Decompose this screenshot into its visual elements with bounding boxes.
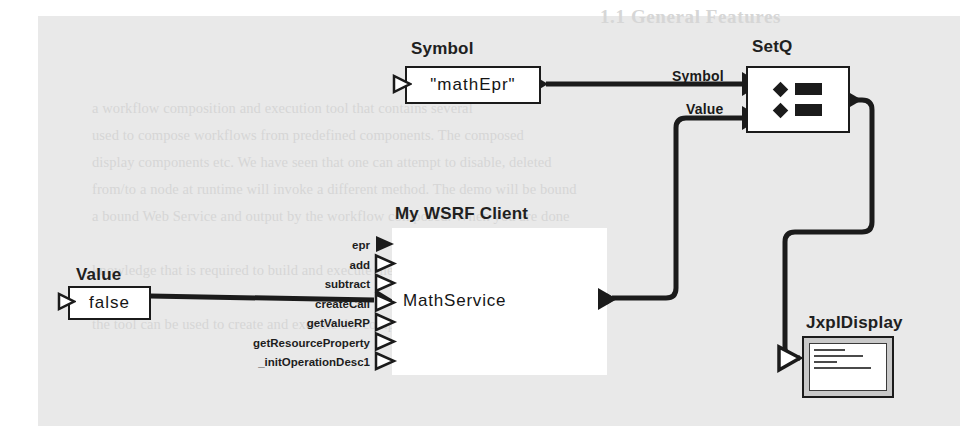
diamond-icon [772,102,788,118]
wsrf-port-label-initoperationdesc1: _initOperationDesc1 [170,353,370,373]
wsrf-client-port-labels: epraddsubtractcreateCallgetValueRPgetRes… [170,236,370,373]
setq-box[interactable] [746,66,850,133]
screen-text-line [814,349,845,351]
wsrf-port-triangle-subtract[interactable] [376,275,394,291]
jxpl-display-title: JxplDisplay [806,313,903,333]
wsrf-port-triangle-getvaluerp[interactable] [376,314,394,330]
wsrf-port-label-getvaluerp: getValueRP [170,314,370,334]
diamond-icon [772,81,788,97]
value-const-title: Value [76,265,121,285]
wsrf-port-triangle-epr[interactable] [376,236,394,252]
wire-mathservice-to-setq [612,118,742,298]
bar-icon [795,83,822,95]
wsrf-port-triangle-getresourceproperty[interactable] [376,334,394,350]
arrowhead-display-in [779,347,800,370]
jxpl-display-screen [809,343,887,391]
wsrf-port-triangle-add[interactable] [376,256,394,272]
screen-text-line [814,367,871,369]
wsrf-port-label-createcall: createCall [170,295,370,315]
wsrf-port-label-getresourceproperty: getResourceProperty [170,334,370,354]
value-const-value: false [89,293,130,313]
setq-input-label-value: Value [686,101,724,117]
wsrf-client-port-triangles[interactable] [374,232,398,377]
bar-icon [795,104,822,116]
wsrf-client-box[interactable]: MathService [392,228,607,375]
value-const-box[interactable]: false [68,286,151,320]
setq-input-label-symbol: Symbol [672,68,724,84]
screen-text-line [814,355,863,357]
symbol-const-title: Symbol [411,39,474,59]
jxpl-display-monitor-icon[interactable] [802,336,894,398]
symbol-const-value: "mathEpr" [430,75,515,95]
wsrf-port-label-subtract: subtract [170,275,370,295]
wsrf-client-title: My WSRF Client [395,204,528,224]
wsrf-port-triangle-createcall[interactable] [376,295,394,311]
symbol-const-box[interactable]: "mathEpr" [405,66,541,104]
wsrf-port-label-add: add [170,256,370,276]
setq-glyph-icon [748,68,848,131]
screen-text-line [814,361,837,363]
wsrf-port-triangle-initoperationdesc1[interactable] [376,353,394,369]
diagram-canvas: 1.1 General Features a workflow composit… [0,0,978,446]
wsrf-client-output-port[interactable] [596,287,620,311]
symbol-const-input-port[interactable] [392,74,412,94]
wsrf-port-label-epr: epr [170,236,370,256]
setq-title: SetQ [752,37,792,57]
value-const-input-port[interactable] [57,292,76,311]
wsrf-client-body-label: MathService [403,291,506,311]
